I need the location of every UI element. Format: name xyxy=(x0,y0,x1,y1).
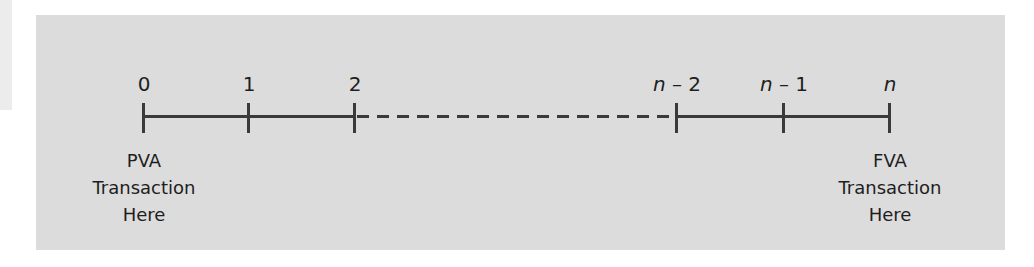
tick-1 xyxy=(247,103,250,133)
pva-line-3: Here xyxy=(93,201,196,228)
tick-label-var: n xyxy=(760,72,773,96)
pva-line-1: PVA xyxy=(93,147,196,174)
axis-dashed-middle xyxy=(357,115,676,118)
tick-label-text: – 1 xyxy=(773,72,808,96)
pva-annotation: PVA Transaction Here xyxy=(93,147,196,228)
timeline-panel: 0 1 2 n – 2 n – 1 n PVA Transaction Here… xyxy=(36,15,1005,250)
tick-label-text: 1 xyxy=(243,72,256,96)
tick-label-text: 2 xyxy=(349,72,362,96)
tick-label-text: 0 xyxy=(138,72,151,96)
page-edge-strip xyxy=(0,0,12,110)
tick-label-2: 2 xyxy=(349,73,362,95)
fva-line-1: FVA xyxy=(839,147,942,174)
tick-n-minus-2 xyxy=(675,103,678,133)
tick-label-var: n xyxy=(884,72,897,96)
tick-n xyxy=(888,103,891,133)
fva-annotation: FVA Transaction Here xyxy=(839,147,942,228)
tick-0 xyxy=(142,103,145,133)
tick-label-n-minus-1: n – 1 xyxy=(760,73,808,95)
tick-label-1: 1 xyxy=(243,73,256,95)
tick-n-minus-1 xyxy=(782,103,785,133)
tick-label-0: 0 xyxy=(138,73,151,95)
tick-2 xyxy=(353,103,356,133)
tick-label-var: n xyxy=(653,72,666,96)
tick-label-text: – 2 xyxy=(666,72,701,96)
pva-line-2: Transaction xyxy=(93,174,196,201)
fva-line-3: Here xyxy=(839,201,942,228)
tick-label-n-minus-2: n – 2 xyxy=(653,73,701,95)
tick-label-n: n xyxy=(884,73,897,95)
fva-line-2: Transaction xyxy=(839,174,942,201)
